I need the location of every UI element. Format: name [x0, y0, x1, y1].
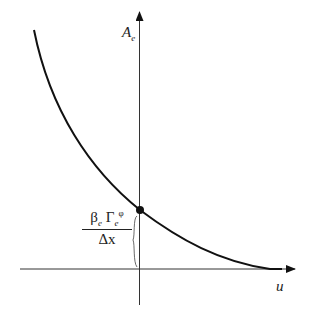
fraction-numerator: βe Γeφ: [82, 208, 132, 228]
brace: [133, 216, 137, 267]
y-axis-label: Ae: [122, 24, 135, 43]
fraction-denominator: Δx: [82, 231, 132, 248]
curve: [34, 30, 282, 269]
intercept-point: [136, 206, 144, 214]
intercept-fraction-label: βe Γeφ Δx: [82, 208, 132, 248]
x-axis-label: u: [276, 278, 284, 295]
fraction-bar: [82, 229, 132, 230]
diagram-canvas: [0, 0, 311, 328]
